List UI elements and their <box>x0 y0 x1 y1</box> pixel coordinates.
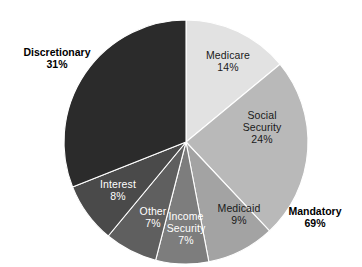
pie-chart: Medicare 14% Social Security 24% Medicai… <box>0 0 362 267</box>
annotation-discretionary-name: Discretionary <box>23 46 90 58</box>
annotation-discretionary: Discretionary 31% <box>23 46 90 71</box>
pie-slices-group <box>64 20 308 264</box>
annotation-mandatory-percent: 69% <box>288 217 341 229</box>
annotation-discretionary-percent: 31% <box>23 58 90 70</box>
annotation-mandatory: Mandatory 69% <box>288 205 341 230</box>
annotation-mandatory-name: Mandatory <box>288 205 341 217</box>
